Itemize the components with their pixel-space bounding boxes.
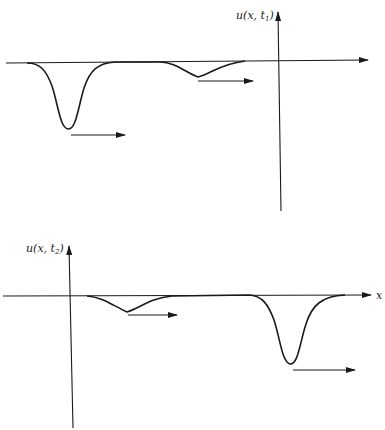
panel-t1: u(x, t1): [6, 9, 368, 211]
panel-t2: x u(x, t2): [3, 242, 383, 428]
large-soliton-t2: [172, 295, 345, 364]
small-soliton-t1: [160, 61, 245, 77]
large-soliton-t1: [27, 62, 160, 129]
soliton-diagram: u(x, t1) x u(x, t2): [0, 0, 385, 430]
x-axis-label-t2: x: [376, 289, 383, 302]
y-axis-label-t1: u(x, t1): [236, 9, 274, 23]
x-axis-t1: [6, 60, 368, 63]
y-axis-t2: [69, 246, 73, 428]
y-axis-t1: [278, 12, 281, 211]
small-soliton-t2: [87, 296, 172, 312]
y-axis-label-t2: u(x, t2): [26, 242, 64, 256]
